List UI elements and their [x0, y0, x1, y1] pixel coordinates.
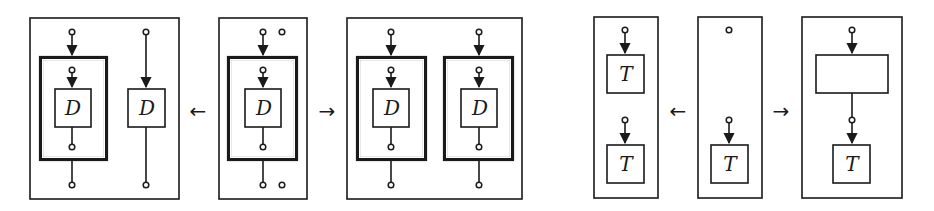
- port-circle: [622, 117, 628, 123]
- port-circle: [143, 29, 149, 35]
- d-label: D: [64, 96, 81, 120]
- empty-box: [816, 55, 888, 93]
- d-label: D: [471, 96, 488, 120]
- extra-port-circle: [279, 182, 285, 188]
- port-circle: [476, 67, 482, 73]
- arrow-left-icon: ←: [190, 99, 207, 123]
- d-label: D: [255, 96, 272, 120]
- panel-d-duplicate: D D: [347, 18, 522, 199]
- port-circle: [260, 144, 266, 150]
- port-circle: [388, 182, 394, 188]
- port-circle: [726, 117, 732, 123]
- port-circle: [476, 29, 482, 35]
- d-label: D: [383, 96, 400, 120]
- port-circle: [476, 182, 482, 188]
- port-circle: [69, 144, 75, 150]
- port-circle: [849, 27, 855, 33]
- panel-t-source: T: [698, 17, 762, 198]
- arrow-right-icon: →: [773, 99, 790, 123]
- t-label: T: [619, 152, 634, 176]
- port-circle: [143, 182, 149, 188]
- extra-port-circle: [279, 29, 285, 35]
- diagram-canvas: D D ← D →: [0, 0, 934, 211]
- port-circle: [69, 29, 75, 35]
- port-circle: [849, 117, 855, 123]
- port-circle: [260, 29, 266, 35]
- t-label: T: [619, 62, 634, 86]
- port-circle: [726, 27, 732, 33]
- t-label: T: [723, 152, 738, 176]
- arrow-left-icon: ←: [670, 99, 687, 123]
- port-circle: [388, 144, 394, 150]
- panel-d-split: D D: [30, 18, 179, 199]
- port-circle: [476, 144, 482, 150]
- port-circle: [260, 182, 266, 188]
- port-circle: [622, 27, 628, 33]
- panel-t-stacked: T T: [594, 17, 658, 198]
- t-label: T: [845, 152, 860, 176]
- port-circle: [69, 67, 75, 73]
- port-circle: [260, 67, 266, 73]
- arrow-right-icon: →: [319, 99, 336, 123]
- d-label: D: [138, 96, 155, 120]
- panel-t-composed: T: [802, 17, 902, 198]
- port-circle: [69, 182, 75, 188]
- panel-d-source: D: [219, 18, 307, 199]
- port-circle: [388, 29, 394, 35]
- port-circle: [388, 67, 394, 73]
